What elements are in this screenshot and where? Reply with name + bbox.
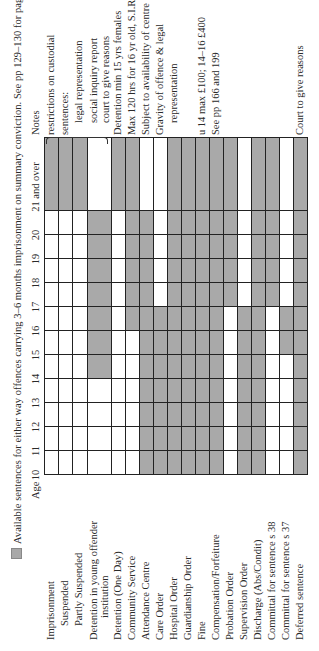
availability-cell [125,307,139,331]
availability-cell [44,283,58,307]
rotated-page: Available sentences for either way offen… [0,0,319,651]
availability-cell [87,211,111,235]
notes-header: Notes [30,111,41,136]
availability-cell [279,331,293,355]
availability-cell [293,355,307,379]
availability-cell [293,307,307,331]
sentence-label: Partly Suspended [73,553,85,626]
availability-cell [293,379,307,403]
availability-cell [237,283,251,307]
availability-cell [209,211,223,235]
availability-cell [44,211,58,235]
availability-cell [72,427,87,451]
availability-cell [139,379,153,403]
availability-cell [87,403,111,427]
availability-cell [58,283,72,307]
availability-cell [58,259,72,283]
availability-cell [167,307,181,331]
sentence-label: Committal for sentence s 37 [280,522,292,640]
note-text: See pp 166 and 199 [210,52,222,135]
availability-cell [195,259,209,283]
availability-cell [237,307,251,331]
availability-cell [181,379,195,403]
availability-cell [72,283,87,307]
availability-cell [209,283,223,307]
availability-cell [265,211,279,235]
availability-cell [223,427,237,451]
availability-cell [72,307,87,331]
availability-cell [111,451,125,475]
availability-cell [139,259,153,283]
availability-cell [111,331,125,355]
availability-cell [167,138,181,211]
availability-cell [265,427,279,451]
availability-cell [125,379,139,403]
availability-cell [58,427,72,451]
availability-cell [153,379,167,403]
availability-cell [195,403,209,427]
availability-cell [195,283,209,307]
availability-cell [251,331,265,355]
availability-cell [87,331,111,355]
availability-cell [279,403,293,427]
age-tick: 20 [30,230,41,241]
availability-cell [72,403,87,427]
availability-cell [181,307,195,331]
availability-cell [87,451,111,475]
availability-cell [167,427,181,451]
availability-cell [279,451,293,475]
age-tick: 10 [30,470,41,481]
availability-cell [153,403,167,427]
availability-cell [125,235,139,259]
note-text: restrictions on custodial [45,35,57,135]
sentence-label: Guardianship Order [182,556,194,640]
note-text: Gravity of offence & legal [154,24,166,135]
note-text: representation [168,64,180,123]
sentence-label: Suspended [59,581,71,627]
availability-cell [44,451,58,475]
sentence-label: Committal for sentence s 38 [266,522,278,640]
availability-cell [209,331,223,355]
availability-cell [181,403,195,427]
availability-cell [153,331,167,355]
availability-cell [58,331,72,355]
availability-cell [72,235,87,259]
availability-cell [153,211,167,235]
note-text: legal representation [73,40,85,123]
availability-cell [279,235,293,259]
availability-cell [279,211,293,235]
availability-cell [251,259,265,283]
availability-cell [265,259,279,283]
availability-cell [237,138,251,211]
availability-cell [223,259,237,283]
availability-cell [111,355,125,379]
availability-cell [223,451,237,475]
age-header-label: Age [30,482,41,500]
availability-cell [58,138,72,211]
sentence-label: Imprisonment [45,581,57,640]
availability-cell [251,427,265,451]
sentence-label: Detention (One Day) [112,551,124,640]
availability-cell [251,307,265,331]
availability-cell [167,211,181,235]
availability-cell [44,379,58,403]
availability-cell [167,355,181,379]
availability-cell [223,331,237,355]
availability-cell [181,283,195,307]
availability-cell [139,307,153,331]
availability-cell [153,259,167,283]
availability-cell [293,451,307,475]
sentence-label: Compensation/Forfeiture [210,534,222,640]
availability-cell [167,379,181,403]
availability-cell [111,379,125,403]
availability-cell [279,283,293,307]
availability-cell [87,259,111,283]
availability-cell [125,331,139,355]
availability-cell [209,427,223,451]
availability-cell [265,355,279,379]
availability-cell [265,307,279,331]
availability-cell [223,403,237,427]
availability-cell [44,331,58,355]
table-title: Available sentences for either way offen… [11,0,23,559]
availability-cell [153,138,167,211]
